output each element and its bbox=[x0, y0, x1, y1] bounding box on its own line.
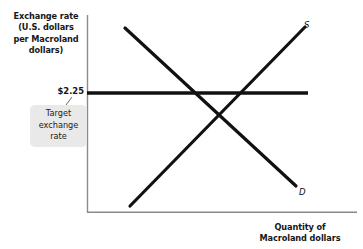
x-axis-title-line-2: Macroland dollars bbox=[243, 233, 357, 244]
demand-curve-label: D bbox=[299, 187, 306, 197]
y-axis-title-line-2: (U.S. dollars bbox=[8, 22, 84, 33]
y-axis-tick-label-target-price: $2.25 bbox=[34, 86, 84, 96]
x-axis-title: Quantity of Macroland dollars bbox=[243, 222, 357, 244]
y-axis-title: Exchange rate (U.S. dollars per Macrolan… bbox=[8, 11, 84, 57]
y-axis-title-line-1: Exchange rate bbox=[8, 11, 84, 22]
supply-curve-s bbox=[130, 27, 305, 206]
y-axis-title-line-4: dollars) bbox=[8, 45, 84, 56]
exchange-rate-diagram: Exchange rate (U.S. dollars per Macrolan… bbox=[0, 0, 363, 249]
demand-curve-d bbox=[125, 28, 296, 186]
supply-curve-label: S bbox=[304, 20, 309, 30]
x-axis-title-line-1: Quantity of bbox=[243, 222, 357, 233]
callout-line-3: rate bbox=[32, 131, 85, 143]
y-axis-title-line-3: per Macroland bbox=[8, 34, 84, 45]
callout-line-2: exchange bbox=[32, 120, 85, 132]
target-exchange-rate-callout: Target exchange rate bbox=[30, 105, 87, 147]
callout-line-1: Target bbox=[32, 108, 85, 120]
